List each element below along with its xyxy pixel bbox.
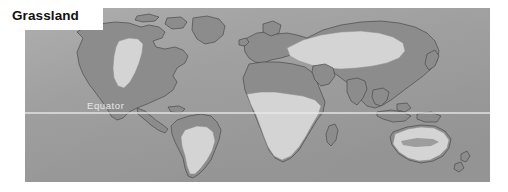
map-title-box: Grassland: [0, 0, 103, 30]
equator-label: Equator: [87, 100, 124, 111]
world-map-panel: Equator: [25, 8, 490, 182]
world-map-svg: Equator: [25, 8, 490, 182]
page-title: Grassland: [12, 8, 79, 23]
grassland-biome-map-figure: Equator Grassland: [0, 0, 508, 192]
